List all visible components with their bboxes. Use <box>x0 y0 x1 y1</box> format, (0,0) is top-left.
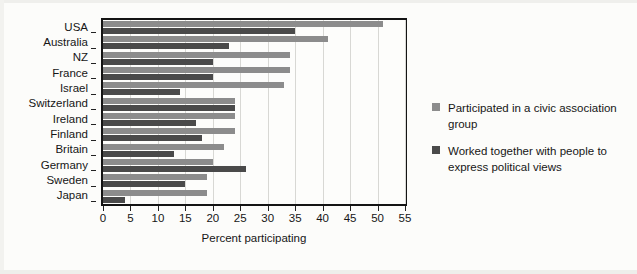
y-axis-tick <box>91 124 96 125</box>
bar <box>103 28 295 34</box>
chart-figure: USAAustraliaNZFranceIsraelSwitzerlandIre… <box>0 0 637 274</box>
bar <box>103 89 180 95</box>
y-axis-label-britain: Britain <box>55 143 88 155</box>
x-axis-tick-5 <box>130 206 131 211</box>
bar-group <box>103 143 405 158</box>
x-axis-tick-25 <box>240 206 241 211</box>
bar <box>103 128 235 134</box>
x-axis-tick-50 <box>378 206 379 211</box>
bar-group <box>103 20 405 35</box>
y-axis-tick <box>91 94 96 95</box>
y-axis-label-switzerland: Switzerland <box>29 97 88 109</box>
x-axis-tick-20 <box>213 206 214 211</box>
x-axis-tick-10 <box>158 206 159 211</box>
plot-area <box>101 18 407 206</box>
x-axis-tick-35 <box>295 206 296 211</box>
x-axis-label-15: 15 <box>179 212 192 224</box>
y-axis-label-usa: USA <box>64 21 88 33</box>
x-axis-label-40: 40 <box>316 212 329 224</box>
x-axis-label-10: 10 <box>152 212 165 224</box>
y-axis-label-australia: Australia <box>43 36 88 48</box>
y-axis-label-france: France <box>52 67 88 79</box>
y-axis-label-finland: Finland <box>50 128 88 140</box>
y-axis-labels: USAAustraliaNZFranceIsraelSwitzerlandIre… <box>0 18 96 206</box>
x-axis-label-45: 45 <box>344 212 357 224</box>
x-axis: 0510152025303540455055 <box>101 206 407 228</box>
bar <box>103 21 383 27</box>
x-axis-tick-30 <box>268 206 269 211</box>
bar <box>103 174 207 180</box>
x-axis-label-5: 5 <box>127 212 133 224</box>
bar <box>103 113 235 119</box>
x-axis-label-20: 20 <box>206 212 219 224</box>
bar <box>103 74 213 80</box>
bar <box>103 120 196 126</box>
chart-legend: Participated in a civic association grou… <box>432 100 628 186</box>
legend-label-civic: Participated in a civic association grou… <box>448 100 628 132</box>
x-axis-title: Percent participating <box>101 232 407 244</box>
scan-edge-bottom <box>0 270 637 274</box>
bar <box>103 105 235 111</box>
y-axis-label-sweden: Sweden <box>46 174 88 186</box>
y-axis-label-nz: NZ <box>73 51 88 63</box>
x-axis-tick-45 <box>350 206 351 211</box>
y-axis-tick <box>91 201 96 202</box>
bar-group <box>103 189 405 204</box>
gridline-55 <box>405 20 406 204</box>
bar <box>103 135 202 141</box>
x-axis-label-30: 30 <box>261 212 274 224</box>
legend-entry-political: Worked together with people to express p… <box>432 143 628 175</box>
bar-group <box>103 97 405 112</box>
legend-entry-civic: Participated in a civic association grou… <box>432 100 628 132</box>
y-axis-tick <box>91 170 96 171</box>
bar-group <box>103 127 405 142</box>
bar <box>103 43 229 49</box>
y-axis-tick <box>91 109 96 110</box>
legend-label-political: Worked together with people to express p… <box>448 143 628 175</box>
y-axis-label-japan: Japan <box>57 189 88 201</box>
x-axis-tick-0 <box>103 206 104 211</box>
y-axis-tick <box>91 155 96 156</box>
y-axis-tick <box>91 63 96 64</box>
bar <box>103 36 328 42</box>
bar <box>103 181 185 187</box>
x-axis-label-0: 0 <box>100 212 106 224</box>
bar <box>103 98 235 104</box>
bar-group <box>103 35 405 50</box>
y-axis-label-germany: Germany <box>41 159 88 171</box>
y-axis-tick <box>91 78 96 79</box>
bar <box>103 82 284 88</box>
x-axis-label-50: 50 <box>371 212 384 224</box>
x-axis-tick-15 <box>185 206 186 211</box>
bar-group <box>103 81 405 96</box>
bar-group <box>103 112 405 127</box>
bar <box>103 67 290 73</box>
scan-edge-top <box>0 0 637 3</box>
x-axis-tick-55 <box>405 206 406 211</box>
y-axis-tick <box>91 140 96 141</box>
bar <box>103 197 125 203</box>
bar <box>103 52 290 58</box>
x-axis-label-35: 35 <box>289 212 302 224</box>
bar-group <box>103 158 405 173</box>
legend-swatch-political-icon <box>432 146 440 154</box>
legend-swatch-civic-icon <box>432 103 440 111</box>
bar-series-container <box>103 20 405 204</box>
bar <box>103 144 224 150</box>
bar <box>103 151 174 157</box>
bar-group <box>103 66 405 81</box>
y-axis-tick <box>91 48 96 49</box>
bar <box>103 59 213 65</box>
x-axis-tick-40 <box>323 206 324 211</box>
bar <box>103 166 246 172</box>
x-axis-label-55: 55 <box>399 212 412 224</box>
bar <box>103 159 213 165</box>
y-axis-label-ireland: Ireland <box>53 113 88 125</box>
x-axis-label-25: 25 <box>234 212 247 224</box>
bar-group <box>103 51 405 66</box>
y-axis-label-israel: Israel <box>60 82 88 94</box>
y-axis-tick <box>91 186 96 187</box>
bar-group <box>103 173 405 188</box>
y-axis-tick <box>91 32 96 33</box>
bar <box>103 190 207 196</box>
